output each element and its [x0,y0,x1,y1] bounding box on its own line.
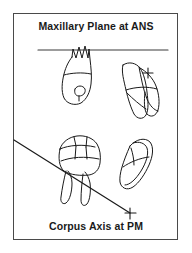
upper-right-molar [122,63,159,118]
lower-right-premolar [120,139,153,189]
upper-left-molar [62,46,91,104]
corpus-axis-line [14,140,130,213]
ans-cross-marker [143,68,153,78]
lower-left-molar [59,136,100,206]
diagram-artwork [13,13,178,240]
diagram-bottom-label: Corpus Axis at PM [0,220,192,232]
pm-cross-marker [125,208,136,219]
tooth-orientation-diagram: Maxillary Plane at ANS [0,0,192,253]
